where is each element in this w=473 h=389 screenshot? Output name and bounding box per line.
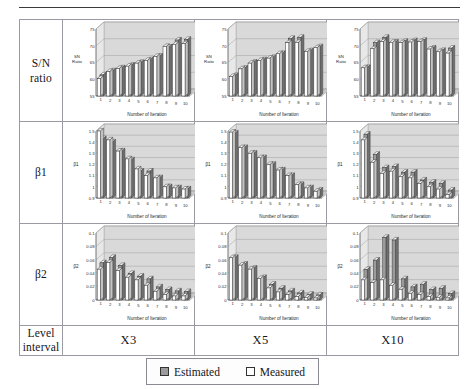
svg-text:9: 9	[307, 101, 310, 106]
svg-text:9: 9	[439, 305, 442, 310]
svg-text:1.2: 1.2	[221, 162, 227, 167]
svg-text:1.5: 1.5	[353, 129, 359, 134]
chart-cell-b1-x3: 0.911.11.21.31.41.512345678910β1Number o…	[63, 122, 195, 224]
legend-swatch-measured-icon	[246, 367, 255, 376]
legend-label-measured: Measured	[260, 366, 305, 378]
svg-text:0.08: 0.08	[350, 244, 359, 249]
svg-text:9: 9	[175, 305, 178, 310]
svg-text:3: 3	[382, 302, 385, 307]
svg-text:5: 5	[137, 303, 140, 308]
figure-legend: Estimated Measured	[146, 358, 319, 385]
svg-text:4: 4	[260, 98, 263, 103]
svg-text:5: 5	[137, 201, 140, 206]
svg-text:3: 3	[250, 98, 253, 103]
svg-text:8: 8	[297, 202, 300, 207]
svg-text:2: 2	[241, 98, 244, 103]
chart-b2-x5: 00.020.040.060.080.112345678910β2Number …	[195, 224, 327, 325]
svg-text:3: 3	[382, 98, 385, 103]
svg-text:10: 10	[183, 101, 188, 106]
svg-text:Number of Iteration: Number of Iteration	[391, 214, 431, 219]
chart-cell-b2-x5: 00.020.040.060.080.112345678910β2Number …	[195, 224, 327, 326]
svg-text:2: 2	[241, 302, 244, 307]
svg-text:65: 65	[354, 60, 359, 65]
svg-text:0.9: 0.9	[89, 196, 95, 201]
svg-text:3: 3	[118, 302, 121, 307]
svg-text:10: 10	[315, 203, 320, 208]
svg-text:6: 6	[411, 201, 414, 206]
table-row-sn-ratio: S/N ratio 556065707512345678910SNRatioNu…	[20, 20, 459, 122]
results-table: S/N ratio 556065707512345678910SNRatioNu…	[19, 19, 459, 356]
svg-text:1.1: 1.1	[353, 173, 359, 178]
svg-text:2: 2	[373, 98, 376, 103]
svg-text:Ratio: Ratio	[336, 59, 346, 64]
svg-text:4: 4	[128, 302, 131, 307]
chart-sn-x5: 556065707512345678910SNRatioNumber of It…	[195, 20, 327, 121]
svg-text:7: 7	[288, 100, 291, 105]
svg-text:0: 0	[224, 298, 227, 303]
svg-text:5: 5	[269, 303, 272, 308]
svg-text:6: 6	[279, 303, 282, 308]
svg-text:7: 7	[288, 202, 291, 207]
svg-text:7: 7	[156, 202, 159, 207]
legend-item-estimated: Estimated	[160, 366, 220, 378]
legend-swatch-estimated-icon	[160, 367, 169, 376]
svg-text:β1: β1	[73, 162, 79, 167]
row-label-level-interval: Level interval	[20, 326, 63, 356]
svg-text:1: 1	[364, 301, 367, 306]
svg-text:6: 6	[147, 303, 150, 308]
svg-text:6: 6	[411, 303, 414, 308]
svg-text:1.3: 1.3	[89, 151, 95, 156]
svg-text:10: 10	[183, 203, 188, 208]
svg-text:1.1: 1.1	[221, 173, 227, 178]
row-label-line: ratio	[20, 71, 62, 85]
row-label-line: S/N	[20, 56, 62, 70]
svg-text:1.3: 1.3	[353, 151, 359, 156]
svg-text:0.06: 0.06	[86, 258, 95, 263]
svg-text:1: 1	[356, 185, 359, 190]
chart-sn-x10: 556065707512345678910SNRatioNumber of It…	[327, 20, 459, 121]
svg-text:0.1: 0.1	[353, 231, 359, 236]
svg-text:4: 4	[128, 200, 131, 205]
svg-text:2: 2	[373, 302, 376, 307]
row-label-beta2: β2	[20, 224, 63, 326]
chart-b1-x10: 0.911.11.21.31.41.512345678910β1Number o…	[327, 122, 459, 223]
svg-text:7: 7	[420, 304, 423, 309]
row-label-sn-ratio: S/N ratio	[20, 20, 63, 122]
svg-text:7: 7	[156, 100, 159, 105]
svg-text:8: 8	[165, 202, 168, 207]
svg-text:0.08: 0.08	[218, 244, 227, 249]
svg-text:10: 10	[183, 305, 188, 310]
table-row-beta1: β1 0.911.11.21.31.41.512345678910β1Numbe…	[20, 122, 459, 224]
chart-b1-x3: 0.911.11.21.31.41.512345678910β1Number o…	[63, 122, 195, 223]
svg-text:70: 70	[222, 44, 227, 49]
svg-text:0.02: 0.02	[350, 284, 359, 289]
svg-text:8: 8	[429, 202, 432, 207]
svg-text:7: 7	[420, 100, 423, 105]
svg-text:10: 10	[447, 101, 452, 106]
svg-text:9: 9	[439, 203, 442, 208]
svg-text:5: 5	[137, 99, 140, 104]
svg-text:55: 55	[90, 94, 95, 99]
level-interval-x10: X10	[327, 326, 459, 356]
svg-text:0.08: 0.08	[86, 244, 95, 249]
svg-text:0.02: 0.02	[86, 284, 95, 289]
svg-text:1.5: 1.5	[221, 129, 227, 134]
svg-text:3: 3	[250, 302, 253, 307]
svg-text:1.3: 1.3	[221, 151, 227, 156]
legend-item-measured: Measured	[246, 366, 305, 378]
svg-text:Number of Iteration: Number of Iteration	[259, 214, 299, 219]
svg-text:0.9: 0.9	[353, 196, 359, 201]
svg-text:3: 3	[118, 98, 121, 103]
svg-text:0: 0	[356, 298, 359, 303]
svg-text:0: 0	[92, 298, 95, 303]
chart-b2-x3: 00.020.040.060.080.112345678910β2Number …	[63, 224, 195, 325]
svg-text:75: 75	[354, 27, 359, 32]
table-row-beta2: β2 00.020.040.060.080.112345678910β2Numb…	[20, 224, 459, 326]
svg-text:9: 9	[175, 101, 178, 106]
svg-text:1: 1	[232, 199, 235, 204]
svg-text:60: 60	[90, 77, 95, 82]
svg-text:1: 1	[92, 185, 95, 190]
svg-text:9: 9	[307, 305, 310, 310]
svg-text:75: 75	[222, 27, 227, 32]
chart-cell-b2-x3: 00.020.040.060.080.112345678910β2Number …	[63, 224, 195, 326]
